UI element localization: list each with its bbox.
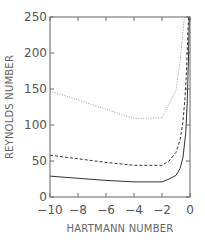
x-tick-label: −6 — [97, 203, 115, 217]
x-axis-label: HARTMANN NUMBER — [67, 223, 174, 234]
y-tick-label: 200 — [24, 46, 47, 60]
series-dotted — [50, 17, 184, 119]
y-tick-label: 100 — [24, 118, 47, 132]
y-tick-label: 50 — [32, 154, 47, 168]
y-axis-label: REYNOLDS NUMBER — [4, 55, 15, 159]
x-tick-label: −8 — [69, 203, 87, 217]
series-solid — [50, 17, 189, 182]
x-tick-label: −4 — [125, 203, 143, 217]
x-tick-label: 0 — [186, 203, 194, 217]
y-tick-label: 250 — [24, 10, 47, 24]
y-tick-label: 0 — [39, 190, 47, 204]
axes-layer: −10−8−6−4−20050100150200250 — [24, 10, 194, 217]
x-tick-label: −10 — [37, 203, 62, 217]
x-tick-label: −2 — [153, 203, 171, 217]
plot-frame — [50, 17, 190, 197]
y-tick-label: 150 — [24, 82, 47, 96]
chart: −10−8−6−4−20050100150200250 HARTMANN NUM… — [0, 0, 205, 240]
series-dashed — [50, 17, 189, 165]
series-layer — [50, 17, 189, 182]
